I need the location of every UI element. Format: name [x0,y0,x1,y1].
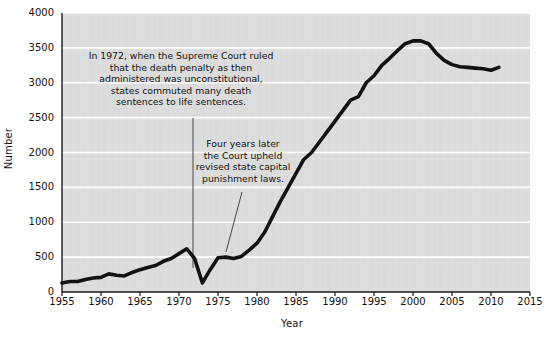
annotation-1976-text: Four years later the Court upheld revise… [184,138,302,184]
chart-figure: Number Year 0500100015002000250030003500… [0,0,551,339]
annotation-1972-text: In 1972, when the Supreme Court ruled th… [66,50,296,108]
